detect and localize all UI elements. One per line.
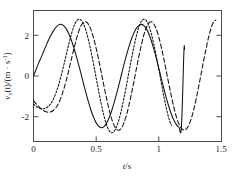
velocity-time-plot: 0 0.5 1 1.5 2 0 -2 t/s vx(t)/(m · s-1)	[0, 0, 233, 177]
x-axis-title: t/s	[123, 161, 132, 171]
x-axis-ticks	[34, 137, 222, 142]
x-tick-label-1-5: 1.5	[215, 144, 227, 154]
curves-group	[34, 19, 216, 133]
y-tick-label-2: 2	[25, 31, 30, 41]
y-tick-label-0: 0	[25, 71, 30, 81]
y-axis-ticks	[34, 35, 222, 116]
x-tick-label-0-5: 0.5	[91, 144, 103, 154]
x-axis-title-unit: /s	[125, 161, 132, 171]
y-axis-title: vx(t)/(m · s-1)	[1, 52, 14, 100]
x-tick-label-0: 0	[31, 144, 36, 154]
y-axis-title-suffix: )	[2, 52, 12, 55]
y-tick-label-minus-2: -2	[22, 112, 30, 122]
y-axis-title-mid: (t)/(m · s	[2, 60, 12, 92]
x-tick-label-1: 1	[157, 144, 162, 154]
figure-container: 0 0.5 1 1.5 2 0 -2 t/s vx(t)/(m · s-1)	[0, 0, 233, 177]
curve-solid	[34, 24, 185, 133]
plot-frame	[34, 11, 222, 142]
